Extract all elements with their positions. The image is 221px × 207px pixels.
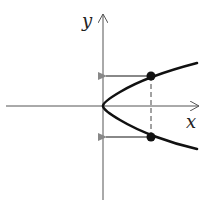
lower-point <box>147 133 156 142</box>
parabola-diagram: y x <box>0 0 221 207</box>
upper-point <box>147 72 156 81</box>
y-axis-label: y <box>81 10 93 31</box>
x-axis-label: x <box>186 111 196 132</box>
